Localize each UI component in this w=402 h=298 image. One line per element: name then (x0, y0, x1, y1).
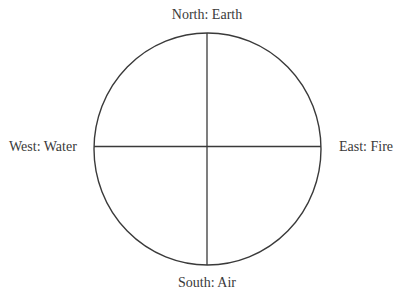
south-label: South: Air (0, 275, 402, 291)
west-label: West: Water (9, 139, 77, 155)
north-label: North: Earth (0, 7, 402, 23)
east-label: East: Fire (339, 139, 393, 155)
